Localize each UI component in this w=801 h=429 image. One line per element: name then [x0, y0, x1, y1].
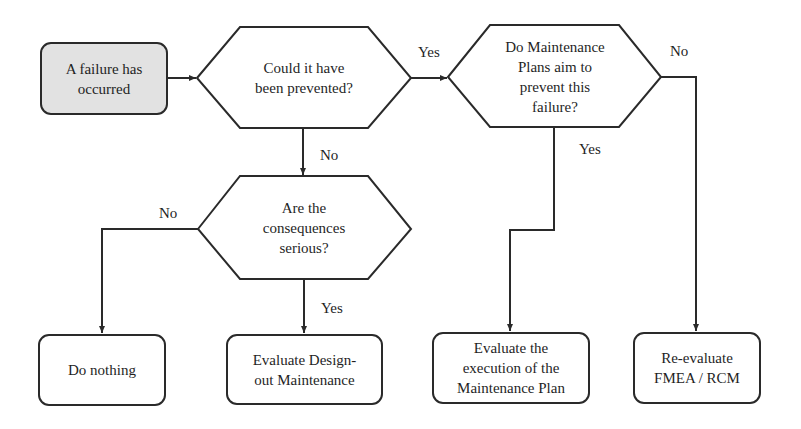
connector-consequences-no [102, 229, 198, 333]
edge-label-prevented-yes: Yes [418, 43, 440, 61]
node-are-consequences-serious: Are the consequences serious? [215, 177, 393, 279]
node-re-evaluate-fmea-rcm: Re-evaluate FMEA / RCM [633, 332, 761, 404]
node-do-maintenance-plans-aim: Do Maintenance Plans aim to prevent this… [465, 26, 645, 127]
connector-plans-yes [510, 127, 554, 331]
node-could-it-have-been-prevented: Could it have been prevented? [215, 28, 393, 128]
flowchart-canvas: A failure has occurred Could it have bee… [0, 0, 801, 429]
edge-label-consequences-yes: Yes [321, 299, 343, 317]
edge-label-prevented-no: No [320, 146, 338, 164]
connector-plans-no [661, 77, 696, 331]
node-evaluate-design-out-maintenance: Evaluate Design- out Maintenance [226, 334, 383, 405]
edge-label-plans-yes: Yes [579, 140, 601, 158]
edge-label-plans-no: No [670, 42, 688, 60]
node-a-failure-has-occurred: A failure has occurred [40, 42, 168, 115]
node-do-nothing: Do nothing [38, 334, 166, 406]
node-evaluate-execution-of-plan: Evaluate the execution of the Maintenanc… [432, 332, 590, 404]
edge-label-consequences-no: No [159, 204, 177, 222]
